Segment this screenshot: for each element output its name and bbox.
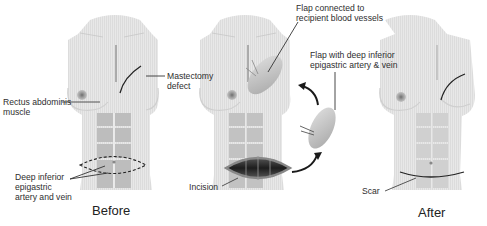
arrow-incision-to-flap <box>292 155 317 172</box>
label-deep-inferior-epigastric: Deep inferior epigastric artery and vein <box>15 172 72 202</box>
diagram: Mastectomy defect Rectus abdominis muscl… <box>0 0 487 226</box>
label-line: muscle <box>3 107 71 117</box>
torso-procedure <box>200 15 341 190</box>
label-incision: Incision <box>189 182 218 192</box>
nipple-left-procedure <box>227 90 237 100</box>
label-line: Mastectomy <box>167 71 213 81</box>
label-rectus-abdominis: Rectus abdominis muscle <box>3 97 71 117</box>
torso-before <box>62 15 158 190</box>
label-flap-with-artery: Flap with deep inferior epigastric arter… <box>310 50 397 70</box>
label-line: epigastric <box>15 182 72 192</box>
nipple-left-before <box>77 90 87 100</box>
label-line: Flap with deep inferior <box>310 50 397 60</box>
label-line: defect <box>167 81 213 91</box>
label-scar: Scar <box>362 186 380 196</box>
flap-in-transit <box>303 103 342 152</box>
label-mastectomy-defect: Mastectomy defect <box>167 71 213 91</box>
caption-before: Before <box>92 203 130 218</box>
caption-after: After <box>418 205 445 220</box>
label-line: Rectus abdominis <box>3 97 71 107</box>
label-flap-connected: Flap connected to recipient blood vessel… <box>296 3 383 23</box>
label-line: Flap connected to <box>296 3 383 13</box>
label-line: epigastric artery & vein <box>310 60 397 70</box>
label-line: artery and vein <box>15 192 72 202</box>
label-line: Deep inferior <box>15 172 72 182</box>
arrow-up-to-chest <box>302 86 318 105</box>
nipple-left-after <box>396 92 406 102</box>
label-line: recipient blood vessels <box>296 13 383 23</box>
torso-after <box>380 15 475 191</box>
diagram-artwork <box>0 0 487 226</box>
